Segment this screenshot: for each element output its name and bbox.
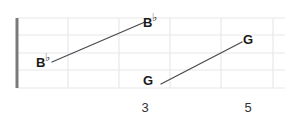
note-letter: G <box>243 32 253 47</box>
note-letter: B <box>143 15 152 30</box>
flat-accidental-icon: ♭ <box>45 51 50 63</box>
note-g-high: G <box>243 33 253 46</box>
note-g-low: G <box>143 74 153 87</box>
fret-number-5: 5 <box>238 101 258 114</box>
note-bflat-low: B♭ <box>36 53 50 69</box>
fret-number-3: 3 <box>135 101 155 114</box>
connector-bflat <box>52 22 145 62</box>
note-letter: G <box>143 73 153 88</box>
fretboard-diagram: B♭B♭GG 35 <box>0 0 296 125</box>
note-letter: B <box>36 55 45 70</box>
note-bflat-high: B♭ <box>143 13 157 29</box>
flat-accidental-icon: ♭ <box>152 11 157 23</box>
connector-g <box>161 42 242 84</box>
